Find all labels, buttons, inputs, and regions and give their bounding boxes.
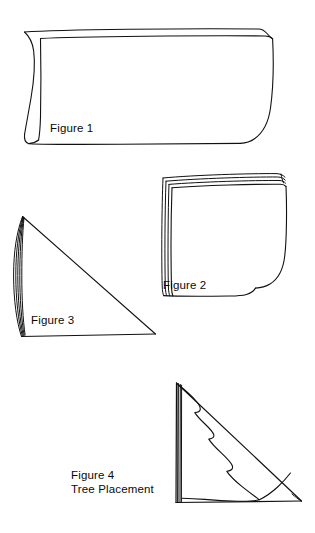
figure-1-back-fold-curl xyxy=(25,32,35,134)
folding-instructions-illustration xyxy=(0,0,315,533)
figure-2-illustration xyxy=(162,174,287,297)
figure-1-curl-tip xyxy=(29,140,39,144)
figure-2-front-top xyxy=(172,184,286,188)
figure-4-caption: Tree Placement xyxy=(71,483,154,497)
figure-4-label: Figure 4 xyxy=(71,469,114,481)
figure-4-tree-outline xyxy=(178,385,259,502)
figure-4-tree-base xyxy=(182,498,204,499)
figure-3-bottom-edge xyxy=(22,334,156,337)
figure-1-back-sheet xyxy=(25,29,273,39)
figure-3-label: Figure 3 xyxy=(31,314,74,328)
figure-1-front-sheet-bottom xyxy=(24,134,240,144)
figure-4-label-group: Figure 4Tree Placement xyxy=(71,469,154,496)
figure-2-label: Figure 2 xyxy=(163,279,206,293)
figure-4-right-tip-mark xyxy=(292,494,301,501)
figure-4-spine-outer xyxy=(176,383,177,503)
figure-1-front-sheet-top xyxy=(41,36,273,39)
figure-1-front-sheet-left-fold xyxy=(39,39,41,141)
figure-4-illustration xyxy=(176,383,302,503)
figure-1-front-sheet-right xyxy=(241,39,274,144)
figure-3-spine-inner xyxy=(22,218,25,335)
figure-2-front-right xyxy=(256,186,287,288)
diagram-page: Figure 1 Figure 2 Figure 3 Figure 4Tree … xyxy=(0,0,315,533)
figure-2-spine-fold-1 xyxy=(162,178,164,296)
figure-1-label: Figure 1 xyxy=(50,122,93,136)
